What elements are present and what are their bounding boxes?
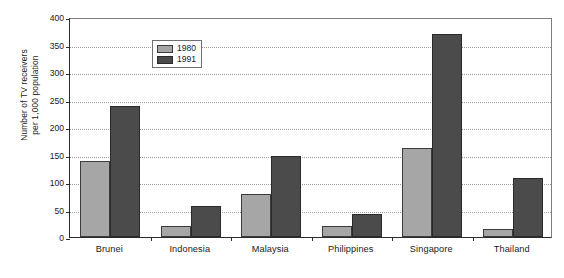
bar-indonesia-1980 [161, 226, 191, 237]
y-axis-tick-label: 400 [38, 14, 64, 23]
x-axis-tickmark [473, 237, 474, 241]
y-axis-tickmark [66, 184, 70, 185]
bar-philippines-1991 [352, 214, 382, 237]
bar-thailand-1991 [513, 178, 543, 237]
x-axis-category-labels: BruneiIndonesiaMalaysiaPhilippinesSingap… [69, 243, 552, 261]
legend-label-1980: 1980 [177, 44, 196, 53]
legend-item-1991: 1991 [157, 55, 196, 64]
x-axis-label-singapore: Singapore [410, 243, 453, 255]
bars-layer [70, 19, 551, 237]
y-axis-tick-label: 0 [38, 234, 64, 243]
bar-indonesia-1991 [191, 206, 221, 237]
x-axis-tickmark [151, 237, 152, 241]
y-axis-tick-label: 150 [38, 151, 64, 160]
y-axis-tick-label: 50 [38, 206, 64, 215]
bar-brunei-1991 [110, 106, 140, 237]
bar-philippines-1980 [322, 226, 352, 237]
y-axis-tick-label: 100 [38, 179, 64, 188]
x-axis-tickmark [231, 237, 232, 241]
x-axis-label-indonesia: Indonesia [169, 243, 210, 255]
bar-chart: Number of TV receivers per 1,000 populat… [0, 0, 564, 278]
legend-item-1980: 1980 [157, 44, 196, 53]
x-axis-label-philippines: Philippines [328, 243, 374, 255]
y-axis-tickmark [66, 157, 70, 158]
bar-malaysia-1980 [241, 194, 271, 237]
legend-swatch-1980-icon [157, 45, 173, 53]
x-axis-tickmark [312, 237, 313, 241]
bar-singapore-1980 [402, 148, 432, 237]
bar-singapore-1991 [432, 34, 462, 238]
bar-thailand-1980 [483, 229, 513, 237]
y-axis-tickmark [66, 47, 70, 48]
y-axis-tickmark [66, 102, 70, 103]
bar-malaysia-1991 [271, 156, 301, 237]
y-axis-tick-label: 250 [38, 96, 64, 105]
y-axis-tickmark [66, 129, 70, 130]
legend-swatch-1991-icon [157, 56, 173, 64]
x-axis-label-thailand: Thailand [494, 243, 530, 255]
y-axis-tickmark [66, 74, 70, 75]
y-axis-tick-label: 350 [38, 41, 64, 50]
y-axis-tick-label: 200 [38, 124, 64, 133]
x-axis-label-brunei: Brunei [96, 243, 123, 255]
y-axis-tickmark [66, 239, 70, 240]
y-axis-tickmark [66, 19, 70, 20]
plot-area: 1980 1991 [69, 18, 552, 238]
legend-label-1991: 1991 [177, 55, 196, 64]
bar-brunei-1980 [80, 161, 110, 237]
y-axis-tick-labels: 400350300250200150100500 [36, 0, 64, 278]
y-axis-tick-label: 300 [38, 69, 64, 78]
x-axis-label-malaysia: Malaysia [252, 243, 289, 255]
y-axis-tickmark [66, 212, 70, 213]
x-axis-tickmark [392, 237, 393, 241]
legend: 1980 1991 [152, 40, 202, 68]
y-axis-title-line-1: Number of TV receivers [19, 49, 30, 141]
